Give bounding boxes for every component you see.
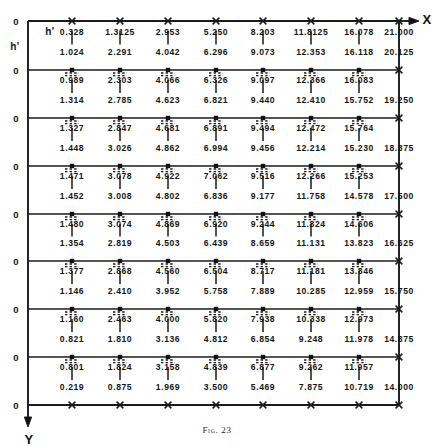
node-value: 11.8125 [294, 27, 328, 36]
node-value: 10.285 [296, 287, 326, 296]
node-value: 3.074 [108, 220, 132, 229]
node-value: 2.868 [108, 267, 132, 276]
node-value: 0.989 [60, 76, 84, 85]
node-value: 1.969 [156, 383, 180, 392]
node-value: 19.250 [384, 96, 414, 105]
node-value: 13.846 [344, 267, 374, 276]
x-axis-label: X [422, 12, 431, 27]
node-value: 18.375 [384, 144, 414, 153]
origin-zero-label: 0 [13, 209, 19, 220]
node-value: 4.802 [156, 192, 180, 201]
node-value: 1.327 [60, 124, 84, 133]
node-value: 1.354 [60, 239, 84, 248]
node-value: 2.291 [108, 47, 132, 56]
node-value: 3.158 [156, 363, 180, 372]
node-value: 3.500 [204, 383, 228, 392]
node-value: 4.839 [204, 363, 228, 372]
node-value: 3.136 [156, 335, 180, 344]
node-value: 8.659 [251, 239, 275, 248]
node-value: 12.214 [296, 144, 326, 153]
figure-23-relaxation-net: 0.3281.31252.9535.2508.20311.812516.0782… [0, 0, 435, 446]
node-value: 3.952 [156, 287, 180, 296]
node-value: 0.328 [60, 27, 84, 36]
node-value: 4.869 [156, 220, 180, 229]
y-axis-label: Y [24, 432, 33, 446]
node-value: 4.812 [204, 335, 228, 344]
origin-zero-label: 0 [13, 16, 19, 27]
node-value: 0.801 [60, 363, 84, 372]
node-value: 9.248 [299, 335, 323, 344]
node-value: 12.366 [296, 76, 326, 85]
node-value: 4.560 [156, 267, 180, 276]
node-value: 1.810 [108, 335, 132, 344]
node-value: 0.875 [108, 383, 132, 392]
node-value: 4.623 [156, 96, 180, 105]
node-value: 9.440 [251, 96, 275, 105]
h-spacing-label-horizontal: h' [45, 26, 54, 37]
node-value: 1.314 [60, 96, 84, 105]
node-value: 16.625 [384, 239, 414, 248]
origin-zero-label: 0 [13, 113, 19, 124]
node-value: 5.469 [251, 383, 275, 392]
node-value: 4.922 [156, 172, 180, 181]
node-value: 11.181 [296, 267, 325, 276]
node-value: 12.472 [296, 124, 326, 133]
node-value: 1.024 [60, 47, 84, 56]
node-value: 0.821 [60, 335, 84, 344]
node-value: 6.821 [204, 96, 228, 105]
node-value: 1.471 [60, 172, 84, 181]
node-value: 9.097 [251, 76, 275, 85]
node-value: 12.353 [296, 47, 326, 56]
node-value: 14.875 [384, 335, 414, 344]
node-value: 9.456 [251, 144, 275, 153]
origin-zero-label: 0 [13, 304, 19, 315]
node-value: 6.504 [204, 267, 228, 276]
node-value: 0.219 [60, 383, 84, 392]
node-value: 1.448 [60, 144, 84, 153]
node-value: 9.516 [251, 172, 275, 181]
node-value: 15.764 [344, 124, 374, 133]
node-value: 12.266 [296, 172, 326, 181]
origin-zero-label: 0 [13, 400, 19, 411]
origin-zero-label: 0 [13, 256, 19, 267]
node-value: 3.078 [108, 172, 132, 181]
node-value: 2.819 [108, 239, 132, 248]
node-value: 4.042 [156, 47, 180, 56]
node-value: 1.452 [60, 192, 84, 201]
node-value: 14.606 [344, 220, 374, 229]
node-value: 10.719 [344, 383, 374, 392]
node-value: 2.785 [108, 96, 132, 105]
node-value: 13.823 [344, 239, 374, 248]
node-value: 6.877 [251, 363, 275, 372]
node-value: 5.250 [204, 27, 228, 36]
node-value: 20.125 [384, 47, 414, 56]
node-value: 11.824 [296, 220, 325, 229]
node-value: 10.338 [296, 315, 326, 324]
node-value: 9.494 [251, 124, 275, 133]
node-value: 11.758 [296, 192, 325, 201]
node-value: 9.073 [251, 47, 275, 56]
node-value: 11.131 [296, 239, 325, 248]
node-value: 3.008 [108, 192, 132, 201]
origin-zero-label: 0 [13, 352, 19, 363]
node-value: 11.978 [344, 335, 373, 344]
node-value: 5.758 [204, 287, 228, 296]
node-value: 8.717 [251, 267, 275, 276]
node-value: 9.244 [251, 220, 275, 229]
node-value: 6.326 [204, 76, 228, 85]
node-value: 7.062 [204, 172, 228, 181]
node-value: 21.000 [384, 27, 414, 36]
h-spacing-label-vertical: h' [10, 41, 19, 52]
node-value: 2.410 [108, 287, 132, 296]
node-value: 6.439 [204, 239, 228, 248]
node-value: 14.000 [384, 383, 414, 392]
node-value: 8.203 [251, 27, 275, 36]
node-value: 1.377 [60, 267, 84, 276]
node-value: 6.296 [204, 47, 228, 56]
origin-zero-label: 0 [13, 161, 19, 172]
node-value: 12.973 [344, 315, 374, 324]
node-value: 2.847 [108, 124, 132, 133]
node-value: 16.078 [344, 27, 374, 36]
node-value: 17.500 [384, 192, 414, 201]
node-value: 16.083 [344, 76, 374, 85]
